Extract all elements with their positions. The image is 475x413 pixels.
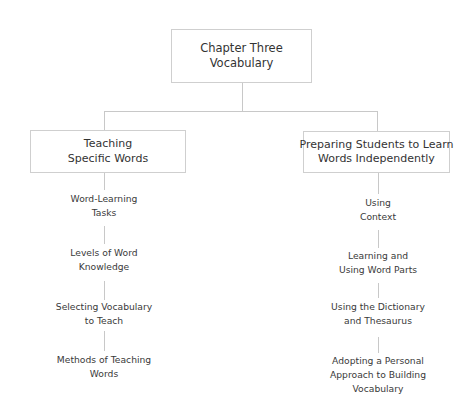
branch-node-line-2: Words Independently [318,152,435,167]
item-line: Learning and [339,249,417,263]
root-connector [242,83,243,111]
branch-node-line-2: Specific Words [68,152,148,167]
left-item-word-learning-tasks: Word-Learning Tasks [71,192,138,220]
left-branch-connector [104,111,105,130]
left-connector-2 [104,226,105,244]
item-line: Using [360,196,396,210]
left-item-levels-of-word-knowledge: Levels of Word Knowledge [70,246,137,274]
item-line: Approach to Building [330,368,426,382]
right-item-personal-approach: Adopting a Personal Approach to Building… [330,354,426,396]
item-line: Vocabulary [330,382,426,396]
right-connector-4 [378,337,379,353]
item-line: Tasks [71,206,138,220]
right-item-using-context: Using Context [360,196,396,224]
item-line: Selecting Vocabulary [56,300,152,314]
item-line: Knowledge [70,260,137,274]
root-node-line-2: Vocabulary [210,56,274,71]
left-item-methods-of-teaching: Methods of Teaching Words [57,353,151,381]
item-line: Adopting a Personal [330,354,426,368]
item-line: Using the Dictionary [331,300,425,314]
item-line: Using Word Parts [339,263,417,277]
item-line: and Thesaurus [331,314,425,328]
branch-node-line-1: Preparing Students to Learn [299,138,453,153]
branch-node-preparing-students: Preparing Students to Learn Words Indepe… [303,131,450,173]
left-item-selecting-vocabulary: Selecting Vocabulary to Teach [56,300,152,328]
item-line: Context [360,210,396,224]
branch-crossbar [104,111,378,112]
right-connector-1 [378,173,379,194]
right-item-dictionary-thesaurus: Using the Dictionary and Thesaurus [331,300,425,328]
branch-node-teaching-specific-words: Teaching Specific Words [30,130,186,173]
item-line: Word-Learning [71,192,138,206]
right-item-learning-word-parts: Learning and Using Word Parts [339,249,417,277]
left-connector-4 [104,331,105,351]
left-connector-3 [104,281,105,300]
right-connector-2 [378,230,379,248]
item-line: to Teach [56,314,152,328]
left-connector-1 [104,173,105,190]
root-node-chapter-three: Chapter Three Vocabulary [171,29,312,83]
item-line: Words [57,367,151,381]
item-line: Levels of Word [70,246,137,260]
item-line: Methods of Teaching [57,353,151,367]
right-branch-connector [377,111,378,131]
right-connector-3 [378,283,379,298]
root-node-line-1: Chapter Three [200,41,283,56]
branch-node-line-1: Teaching [84,137,132,152]
